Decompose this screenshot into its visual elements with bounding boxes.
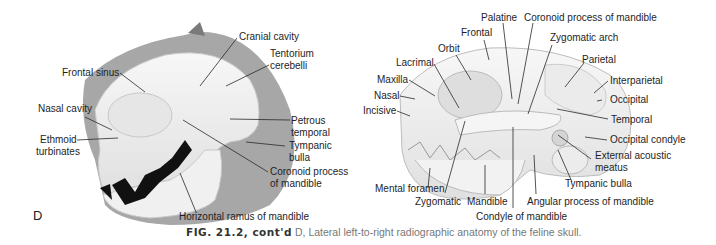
label-incisive: Incisive (363, 105, 396, 116)
label-lacrimal: Lacrimal (396, 57, 434, 68)
label-occipital-condyle: Occipital condyle (610, 134, 686, 145)
label-coronoid-process: Coronoid process (270, 166, 348, 177)
label-occipital: Occipital (610, 94, 648, 105)
label-maxilla: Maxilla (377, 74, 408, 85)
label-mental-foramen: Mental foramen (375, 183, 444, 194)
label-zygomatic-arch: Zygomatic arch (550, 32, 618, 43)
label-cerebelli: cerebelli (270, 60, 307, 71)
label-turbinates: turbinates (36, 146, 80, 157)
label-external-acoustic: External acoustic (595, 150, 671, 161)
label-nasal-cavity: Nasal cavity (38, 103, 92, 114)
label-of-mandible: of mandible (270, 178, 322, 189)
label-interparietal: Interparietal (610, 75, 663, 86)
label-orbit: Orbit (438, 43, 460, 54)
label-parietal: Parietal (582, 54, 616, 65)
label-tentorium: Tentorium (270, 48, 314, 59)
panel-letter: D (33, 208, 42, 223)
right-skull-drawing (400, 48, 631, 199)
label-temporal-right: Temporal (611, 114, 652, 125)
label-petrous: Petrous (291, 115, 325, 126)
label-angular-process: Angular process of mandible (527, 196, 654, 207)
label-temporal: temporal (291, 127, 330, 138)
label-condyle-of-mandible: Condyle of mandible (476, 211, 567, 222)
label-meatus: meatus (595, 162, 628, 173)
label-tympanic-bulla: Tympanic bulla (565, 178, 632, 189)
label-nasal: Nasal (374, 90, 400, 101)
figure-caption: FIG. 21.2, cont'd D, Lateral left-to-rig… (186, 226, 582, 238)
label-bulla: bulla (289, 152, 310, 163)
figure-number: FIG. 21.2, cont'd (186, 226, 292, 238)
label-palatine: Palatine (481, 12, 517, 23)
label-zygomatic: Zygomatic (415, 196, 461, 207)
label-cranial-cavity: Cranial cavity (239, 31, 299, 42)
label-frontal: Frontal (461, 27, 492, 38)
label-mandible: Mandible (467, 196, 508, 207)
label-ethmoid: Ethmoid (40, 134, 77, 145)
caption-text: D, Lateral left-to-right radiographic an… (292, 226, 581, 238)
label-frontal-sinus: Frontal sinus (62, 67, 119, 78)
label-tympanic: Tympanic (289, 140, 332, 151)
label-horizontal-ramus: Horizontal ramus of mandible (179, 211, 309, 222)
label-coronoid-process-right: Coronoid process of mandible (524, 12, 657, 23)
